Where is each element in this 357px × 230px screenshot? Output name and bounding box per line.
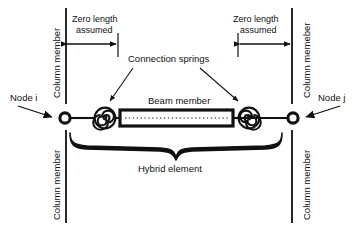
diagram-canvas: Column member Column member Column memeb… (0, 0, 357, 230)
node-i-label: Node i (10, 92, 37, 103)
column-member-bottom-left-label: Column member (51, 150, 62, 220)
zero-length-left-line2: assumed (76, 25, 113, 35)
column-member-bottom-right-label: Column member (301, 150, 312, 220)
column-member-top-left-label: Column member (51, 28, 62, 98)
zero-length-left-line1: Zero length (72, 14, 118, 24)
node-j-marker (288, 113, 298, 123)
hybrid-element-brace (70, 133, 282, 160)
beam-member-label: Beam member (148, 95, 210, 106)
node-i-marker (60, 113, 70, 123)
node-j-leader (306, 106, 340, 117)
connection-springs-label: Connection springs (128, 53, 210, 64)
column-member-top-right-label: Column memeber (301, 23, 312, 99)
zero-length-right-line2: assumed (240, 25, 277, 35)
node-j-label: Node j (318, 92, 345, 103)
hybrid-element-label: Hybrid element (138, 163, 202, 174)
hybrid-element-diagram: Column member Column member Column memeb… (0, 0, 357, 230)
node-i-leader (18, 106, 52, 117)
connection-springs-leader-left (110, 68, 133, 101)
spring-left (93, 108, 115, 130)
zero-length-right-line1: Zero length (233, 14, 279, 24)
